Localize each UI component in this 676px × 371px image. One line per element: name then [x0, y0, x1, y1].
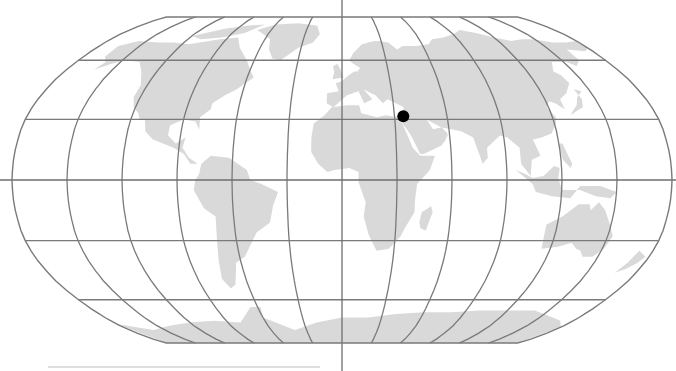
- landmass-madagascar: [419, 206, 432, 230]
- landmass-japan: [571, 89, 583, 115]
- landmass-north-america: [94, 38, 254, 164]
- landmass-new-zealand: [615, 251, 646, 273]
- location-marker-icon[interactable]: [397, 110, 409, 122]
- landmass-south-america: [194, 156, 278, 289]
- landmass-greenland: [257, 23, 320, 60]
- landmass-antarctica: [117, 307, 561, 343]
- world-map: [0, 0, 676, 371]
